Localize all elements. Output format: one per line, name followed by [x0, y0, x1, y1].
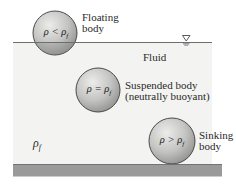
buoyancy-diagram: ρ < ρf Floating body Fluid ρ = ρf Suspen…	[0, 0, 236, 185]
suspended-condition-label: ρ = ρf	[79, 83, 119, 97]
sinking-caption: Sinking body	[199, 130, 233, 152]
sinking-condition-label: ρ > ρf	[152, 134, 192, 148]
suspended-caption: Suspended body (neutrally buoyant)	[125, 80, 210, 102]
floor	[13, 165, 222, 177]
floating-caption: Floating body	[82, 12, 119, 34]
floating-condition-label: ρ < ρf	[36, 26, 76, 40]
fluid-label: Fluid	[143, 52, 166, 63]
fluid-density-label: ρf	[33, 136, 41, 152]
water-surface-triangle-icon	[183, 36, 191, 46]
